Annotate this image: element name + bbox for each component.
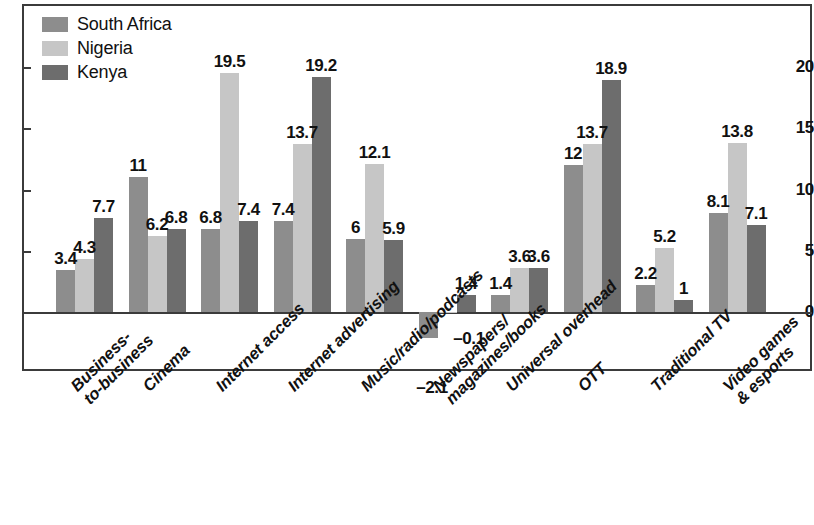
legend-label-kenya: Kenya (77, 63, 127, 82)
y-axis-tick-mark (22, 251, 31, 253)
bar (346, 239, 365, 313)
bar (636, 285, 655, 312)
legend-label-south-africa: South Africa (77, 15, 172, 34)
bar (75, 259, 94, 312)
legend-swatch-kenya (42, 65, 68, 80)
bar (602, 80, 621, 312)
bar (56, 270, 75, 312)
bar (201, 229, 220, 312)
chart-legend: South Africa Nigeria Kenya (42, 14, 172, 83)
bar (674, 300, 693, 312)
bar (564, 165, 583, 312)
legend-label-nigeria: Nigeria (77, 39, 133, 58)
y-axis-tick-mark (22, 190, 31, 192)
bar (129, 177, 148, 312)
bar (709, 213, 728, 312)
bar (747, 225, 766, 312)
legend-item-nigeria: Nigeria (42, 38, 172, 59)
legend-swatch-south-africa (42, 17, 68, 32)
bar (293, 144, 312, 312)
y-axis-tick-mark (22, 128, 31, 130)
bar (167, 229, 186, 312)
y-axis-tick-label: 10 (792, 180, 814, 200)
bar (655, 248, 674, 312)
bar (312, 77, 331, 312)
bar (239, 221, 258, 312)
y-axis-tick-label: 15 (792, 118, 814, 138)
legend-swatch-nigeria (42, 41, 68, 56)
bar (148, 236, 167, 312)
legend-item-south-africa: South Africa (42, 14, 172, 35)
y-axis-tick-mark (22, 67, 31, 69)
bar (728, 143, 747, 312)
y-axis-tick-label: 5 (792, 241, 814, 261)
legend-item-kenya: Kenya (42, 62, 172, 83)
bar (94, 218, 113, 312)
chart-figure: South Africa Nigeria Kenya 05101520 3.44… (0, 0, 814, 525)
bar (220, 73, 239, 312)
y-axis-tick-label: 20 (792, 57, 814, 77)
zero-baseline (22, 312, 812, 314)
bar (274, 221, 293, 312)
